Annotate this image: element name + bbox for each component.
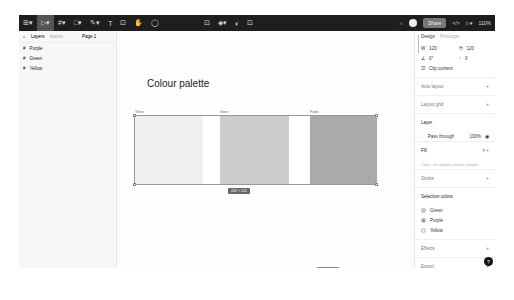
page-title[interactable]: Colour palette (147, 78, 209, 89)
avatar[interactable] (409, 19, 417, 27)
text-tool-button[interactable]: T (104, 15, 116, 31)
page-dropdown[interactable]: Page 1 (82, 34, 96, 39)
swatch-yellow[interactable] (135, 116, 203, 184)
figma-app: ⊞▾ ▷▾ #▾ □▾ ✎▾ T ⊡ ✋ ◯ ⊡ ◈▾ ◐ ⊡ ∩ Share … (19, 15, 495, 268)
mask-icon[interactable]: ◈▾ (218, 19, 227, 27)
component-icon[interactable]: ⊡ (204, 19, 210, 27)
color-chip (421, 218, 426, 223)
vertical-scrollbar[interactable] (418, 35, 419, 53)
resize-handle[interactable] (133, 183, 136, 186)
plus-icon[interactable]: ≡ + (482, 148, 489, 153)
frame-tool-button[interactable]: #▾ (54, 15, 70, 31)
tab-prototype[interactable]: Prototype (440, 34, 459, 39)
resize-handle[interactable] (375, 183, 378, 186)
layer-label: Layer (421, 120, 432, 125)
top-toolbar: ⊞▾ ▷▾ #▾ □▾ ✎▾ T ⊡ ✋ ◯ ⊡ ◈▾ ◐ ⊡ ∩ Share … (19, 15, 495, 31)
main-menu-button[interactable]: ⊞▾ (19, 15, 37, 31)
swatch-purple[interactable] (310, 116, 377, 184)
resources-button[interactable]: ⊡ (116, 15, 130, 31)
dev-mode-icon[interactable]: </> (452, 20, 459, 26)
color-item[interactable]: Yellow (415, 225, 495, 235)
swatch-label: Yellow (135, 110, 144, 114)
comment-tool-button[interactable]: ◯ (147, 15, 163, 31)
hand-tool-button[interactable]: ✋ (130, 15, 147, 31)
checkbox[interactable]: ☑ (421, 66, 425, 71)
crop-icon[interactable]: ⊡ (247, 19, 253, 27)
tab-layers[interactable]: Layers (31, 34, 45, 39)
swatch-green[interactable] (220, 116, 289, 184)
stroke-label: Stroke (421, 176, 434, 181)
layer-item[interactable]: #Purple (19, 43, 116, 53)
color-chip (421, 208, 426, 213)
plus-icon[interactable]: + (486, 176, 489, 181)
export-label: Export (421, 264, 434, 268)
horizontal-scrollbar[interactable] (317, 267, 339, 268)
frame-icon: # (23, 66, 26, 71)
radius-field[interactable]: 0 (465, 56, 468, 61)
swatch-label: Purple (310, 110, 319, 114)
tab-assets[interactable]: Assets (50, 34, 64, 39)
help-button[interactable]: ? (484, 257, 493, 266)
effects-label: Effects (421, 246, 435, 251)
fill-label: Fill (421, 148, 427, 153)
design-panel: Design Prototype W120H120 ∠0°◜0 ☑Clip co… (414, 31, 495, 268)
search-icon[interactable]: ⌕ (23, 34, 26, 39)
frame-icon: # (23, 46, 26, 51)
layers-panel: ⌕ Layers Assets Page 1 #Purple #Green #Y… (19, 31, 117, 268)
blend-icon: ◌ (421, 134, 424, 139)
present-button[interactable]: ▷▾ (466, 20, 473, 26)
frame-icon: # (23, 56, 26, 61)
color-chip (421, 228, 426, 233)
layout-grid-label: Layout grid (421, 102, 443, 107)
plus-icon[interactable]: + (486, 84, 489, 89)
contrast-icon[interactable]: ◐ (235, 20, 239, 27)
pen-tool-button[interactable]: ✎▾ (86, 15, 104, 31)
headphones-icon[interactable]: ∩ (399, 20, 403, 26)
selection-colors-label: Selection colors (421, 194, 453, 199)
layer-item[interactable]: #Yellow (19, 63, 116, 73)
resize-handle[interactable] (375, 114, 378, 117)
shape-tool-button[interactable]: □▾ (70, 15, 86, 31)
size-badge: 432 × 120 (228, 188, 250, 194)
rotation-field[interactable]: 0° (429, 56, 455, 61)
tab-design[interactable]: Design (421, 34, 435, 39)
move-tool-button[interactable]: ▷▾ (37, 15, 54, 31)
share-button[interactable]: Share (423, 18, 446, 28)
width-field[interactable]: 120 (429, 46, 455, 51)
swatch-label: Green (220, 110, 228, 114)
selection-frame[interactable]: Yellow Green Purple (134, 115, 377, 185)
color-item[interactable]: Green (415, 205, 495, 215)
auto-layout-label: Auto layout (421, 84, 444, 89)
blend-dropdown[interactable]: Pass through (428, 134, 466, 139)
eye-icon[interactable]: ◉ (485, 134, 489, 139)
clip-content-label: Clip content (429, 66, 453, 71)
color-item[interactable]: Purple (415, 215, 495, 225)
height-field[interactable]: 120 (467, 46, 475, 51)
opacity-field[interactable]: 100% (469, 134, 481, 139)
layer-item[interactable]: #Green (19, 53, 116, 63)
zoom-dropdown[interactable]: 110% (479, 20, 491, 26)
plus-icon[interactable]: + (486, 102, 489, 107)
resize-handle[interactable] (133, 114, 136, 117)
canvas[interactable]: Colour palette Yellow Green Purple 432 ×… (117, 31, 414, 268)
fill-hint: Click + to replace mixed content (415, 159, 495, 169)
plus-icon[interactable]: + (486, 246, 489, 251)
